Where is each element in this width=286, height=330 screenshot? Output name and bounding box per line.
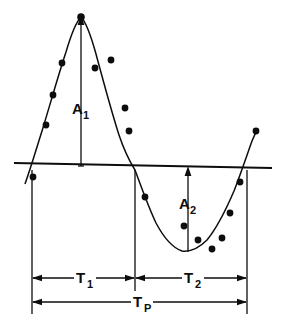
data-point — [43, 122, 50, 129]
amplitude-2-annotation: A 2 — [179, 166, 196, 252]
data-point — [122, 105, 129, 112]
data-point — [253, 128, 260, 135]
data-point — [209, 246, 216, 253]
duration-1-arrowhead-right — [125, 275, 135, 281]
data-point — [181, 223, 188, 230]
period-arrowhead-right — [237, 299, 247, 305]
duration-2-arrowhead-left — [135, 275, 145, 281]
period-label: T — [133, 293, 142, 310]
data-point — [219, 235, 226, 242]
period-arrowhead-left — [32, 299, 42, 305]
duration-2-arrowhead-right — [237, 275, 247, 281]
waveform-svg: A 1 A 2 — [0, 0, 286, 330]
data-point — [142, 194, 149, 201]
data-point — [237, 179, 244, 186]
data-point — [92, 65, 99, 72]
amplitude-1-label: A — [72, 100, 83, 117]
data-point — [126, 128, 133, 135]
duration-2-subscript: 2 — [195, 278, 201, 290]
period-dimension: T P — [32, 293, 247, 314]
data-point — [227, 210, 234, 217]
amplitude-2-subscript: 2 — [190, 204, 196, 216]
period-subscript: P — [144, 302, 151, 314]
data-point — [195, 237, 202, 244]
duration-2-label: T — [184, 269, 193, 286]
data-point — [59, 60, 66, 67]
data-point — [50, 92, 57, 99]
duration-1-label: T — [76, 269, 85, 286]
duration-2-dimension: T 2 — [135, 269, 247, 290]
amplitude-2-label: A — [179, 195, 190, 212]
duration-1-subscript: 1 — [87, 278, 93, 290]
data-point — [30, 174, 37, 181]
waveform-figure: A 1 A 2 — [0, 0, 286, 330]
baseline-axis — [14, 163, 272, 168]
duration-1-dimension: T 1 — [32, 269, 135, 290]
sine-curve — [25, 17, 258, 251]
measured-sample-points — [30, 13, 260, 252]
data-point — [108, 57, 115, 64]
amplitude-1-subscript: 1 — [83, 109, 89, 121]
duration-1-arrowhead-left — [32, 275, 42, 281]
data-point — [77, 13, 85, 21]
amplitude-1-annotation: A 1 — [72, 15, 89, 166]
